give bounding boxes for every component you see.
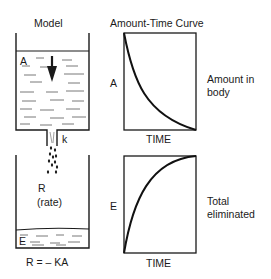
bottom-chart-side-label-2: eliminated [207, 208, 255, 220]
top-chart-frame [124, 33, 196, 130]
bottom-chart-x-label: TIME [146, 257, 171, 269]
bottom-tank-label: E [19, 235, 26, 247]
bottom-chart-rise-curve [124, 156, 196, 253]
flow-rate-sublabel: (rate) [37, 196, 62, 208]
flow-rate-label: R [38, 182, 46, 194]
top-chart-side-label-2: body [207, 86, 230, 98]
flow-direction-arrow-icon [47, 56, 57, 82]
bottom-chart-y-label: E [110, 200, 117, 212]
top-chart-side-label-1: Amount in [207, 73, 254, 85]
top-chart-decay-curve [124, 33, 196, 130]
top-tank [16, 33, 89, 146]
rate-equation: R = – KA [26, 256, 68, 268]
falling-drops [47, 146, 58, 174]
top-chart-x-label: TIME [146, 133, 171, 145]
top-chart-y-label: A [110, 77, 117, 89]
diagram-canvas [0, 0, 271, 279]
top-tank-label: A [20, 55, 27, 67]
bottom-chart-side-label-1: Total [207, 195, 229, 207]
bottom-tank-water-lines [20, 235, 82, 245]
outlet-rate-constant-label: k [62, 133, 67, 145]
outlet-stream [50, 132, 54, 143]
